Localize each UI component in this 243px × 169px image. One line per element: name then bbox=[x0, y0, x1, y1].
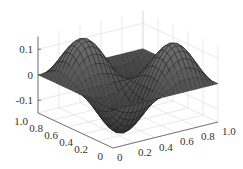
z-tick-label: 0.1 bbox=[19, 43, 33, 55]
y-tick-label: 0.4 bbox=[59, 136, 73, 148]
z-tick-label: -0.1 bbox=[16, 94, 33, 106]
x-tick-label: 0.4 bbox=[159, 141, 173, 153]
x-tick-label: 0.2 bbox=[138, 146, 152, 158]
x-tick-label: 0 bbox=[117, 151, 123, 163]
surface-plot: 00.20.40.60.81.000.20.40.60.81.0-0.100.1 bbox=[0, 0, 243, 169]
plot-canvas: 00.20.40.60.81.000.20.40.60.81.0-0.100.1 bbox=[0, 0, 243, 169]
y-tick-label: 0.8 bbox=[29, 122, 43, 134]
x-tick-label: 0.6 bbox=[180, 135, 194, 147]
y-tick-label: 1.0 bbox=[14, 115, 28, 127]
y-tick-label: 0.6 bbox=[44, 129, 58, 141]
z-tick-label: 0 bbox=[28, 69, 34, 81]
x-tick-label: 0.8 bbox=[201, 130, 215, 142]
x-tick-label: 1.0 bbox=[222, 125, 236, 137]
y-tick-label: 0 bbox=[98, 150, 104, 162]
y-tick-label: 0.2 bbox=[74, 143, 88, 155]
